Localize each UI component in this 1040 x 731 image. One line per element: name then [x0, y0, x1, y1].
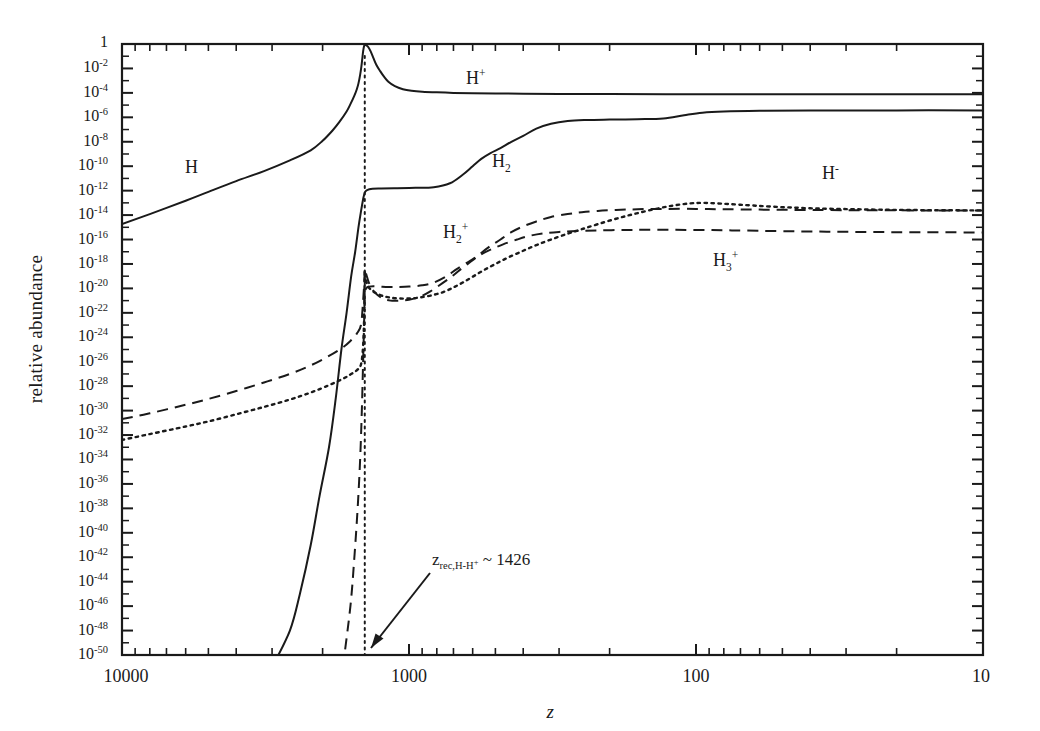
- x-tick-label: 10000: [104, 667, 149, 685]
- y-tick-label: 10-30: [78, 401, 108, 418]
- y-tick-label: 10-32: [78, 425, 108, 442]
- annotation-marks: [365, 56, 430, 655]
- y-tick-label: 10-8: [83, 132, 108, 149]
- y-tick-label: 10-12: [78, 181, 108, 198]
- axis-ticks: [122, 44, 983, 655]
- y-tick-label: 10-20: [78, 278, 108, 295]
- plot-canvas: [0, 0, 1040, 731]
- curve-label-h3plus: H3+: [713, 250, 738, 273]
- curve-label-h2: H2: [492, 152, 511, 174]
- y-tick-label: 10-14: [78, 205, 108, 222]
- curve-label-hminus: H-: [822, 163, 839, 182]
- recombination-annotation-text: zrec,H-H+ ~ 1426: [432, 551, 530, 572]
- y-tick-label: 10-10: [78, 156, 108, 173]
- x-tick-label: 100: [683, 667, 710, 685]
- y-tick-label: 10-18: [78, 254, 108, 271]
- curve-hplus: [365, 45, 983, 95]
- curve-h: [122, 44, 366, 224]
- y-tick-label: 10-44: [78, 572, 108, 589]
- y-tick-label: 10-34: [78, 449, 108, 466]
- y-tick-label: 1: [100, 34, 108, 50]
- curve-h3plus: [343, 230, 983, 667]
- y-tick-label: 10-38: [78, 498, 108, 515]
- y-tick-label: 10-28: [78, 376, 108, 393]
- x-tick-label: 10: [972, 667, 990, 685]
- y-tick-label: 10-6: [83, 107, 108, 124]
- y-tick-label: 10-4: [83, 83, 108, 100]
- y-tick-label: 10-36: [78, 474, 108, 491]
- y-tick-label: 10-46: [78, 596, 108, 613]
- y-tick-label: 10-48: [78, 621, 108, 638]
- x-axis-title: z: [547, 701, 554, 723]
- curve-h2plus: [122, 209, 983, 419]
- curve-hminus: [122, 203, 983, 440]
- y-tick-label: 10-16: [78, 230, 108, 247]
- y-tick-label: 10-50: [78, 645, 108, 662]
- y-tick-label: 10-2: [83, 58, 108, 75]
- curve-h2: [272, 110, 983, 667]
- y-tick-label: 10-24: [78, 327, 108, 344]
- data-curves: [122, 44, 983, 667]
- curve-label-h: H: [185, 158, 198, 176]
- curve-label-hplus: H+: [466, 68, 486, 87]
- curve-label-h2plus: H2+: [443, 222, 468, 245]
- x-tick-label: 1000: [391, 667, 427, 685]
- plot-frame: [122, 44, 983, 655]
- y-tick-label: 10-42: [78, 547, 108, 564]
- y-axis-title: relative abundance: [25, 189, 47, 469]
- y-tick-label: 10-26: [78, 352, 108, 369]
- y-tick-label: 10-40: [78, 523, 108, 540]
- figure-root: relative abundance z 110-210-410-610-810…: [0, 0, 1040, 731]
- y-tick-label: 10-22: [78, 303, 108, 320]
